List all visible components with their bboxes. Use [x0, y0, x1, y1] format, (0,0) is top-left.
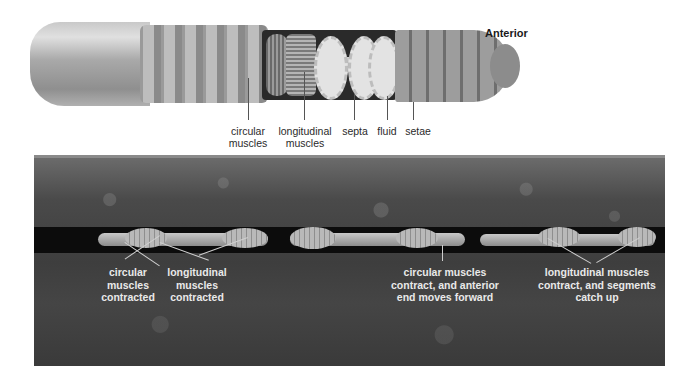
label-line: septa: [342, 125, 368, 137]
pointer-forward: [442, 245, 443, 261]
worm-posterior-body: [30, 22, 150, 106]
label-circular-contract-forward: circular muscles contract, and anterior …: [390, 266, 500, 304]
anterior-label: Anterior: [485, 27, 528, 39]
label-line: muscles: [276, 137, 334, 149]
label-line: catch up: [536, 291, 658, 304]
label-circular-muscles: circular muscles: [226, 125, 270, 149]
label-line: contract, and anterior: [390, 279, 500, 292]
label-setae: setae: [404, 125, 432, 137]
label-line: circular: [226, 125, 270, 137]
label-line: circular muscles: [390, 266, 500, 279]
worm-2-rear-bulge: [290, 227, 336, 249]
label-line: contract, and segments: [536, 279, 658, 292]
soil-background: [34, 155, 665, 366]
circular-muscle-layer: [266, 34, 288, 96]
leader-line-septa: [354, 94, 355, 120]
label-fluid: fluid: [375, 125, 399, 137]
label-line: fluid: [375, 125, 399, 137]
label-line: longitudinal: [276, 125, 334, 137]
label-line: contracted: [162, 291, 232, 304]
label-line: contracted: [98, 291, 158, 304]
label-septa: septa: [342, 125, 368, 137]
label-line: setae: [404, 125, 432, 137]
label-longitudinal-muscles: longitudinal muscles: [276, 125, 334, 149]
label-line: muscles: [226, 137, 270, 149]
label-line: muscles: [98, 279, 158, 292]
worm-head-tip: [490, 44, 520, 88]
leader-line-setae: [413, 102, 414, 120]
worm-3-front-bulge: [618, 227, 656, 247]
leader-line-longitudinal: [304, 72, 305, 120]
label-circular-muscles-contracted: circular muscles contracted: [98, 266, 158, 304]
worm-2-mid-bulge: [396, 228, 438, 248]
label-longitudinal-contract-catchup: longitudinal muscles contract, and segme…: [536, 266, 658, 304]
label-line: end moves forward: [390, 291, 500, 304]
label-line: longitudinal muscles: [536, 266, 658, 279]
leader-line-circular: [248, 78, 249, 120]
label-line: circular: [98, 266, 158, 279]
longitudinal-muscle-layer: [286, 34, 316, 96]
label-line: longitudinal: [162, 266, 232, 279]
leader-line-fluid: [387, 96, 388, 120]
septum-1: [314, 36, 348, 100]
label-longitudinal-muscles-contracted: longitudinal muscles contracted: [162, 266, 232, 304]
label-line: muscles: [162, 279, 232, 292]
